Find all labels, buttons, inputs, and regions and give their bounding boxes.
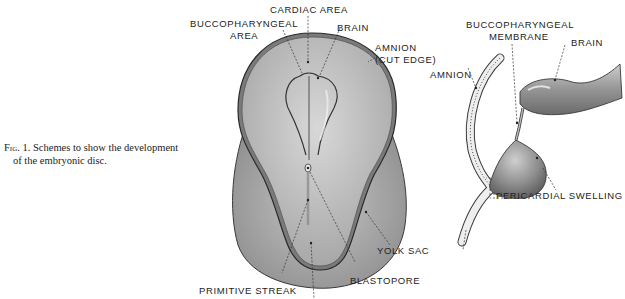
label-cardiac-area: CARDIAC AREA (270, 4, 348, 16)
label-yolk-sac: YOLK SAC (377, 245, 429, 257)
label-buccopharyngeal-membrane-line1: BUCCOPHARYNGEAL (466, 19, 574, 31)
label-amnion-right: AMNION (430, 69, 472, 81)
label-amnion-cut-edge-line2: (CUT EDGE) (375, 54, 436, 66)
label-blastopore: BLASTOPORE (350, 275, 420, 287)
label-pericardial-swelling: PERICARDIAL SWELLING (496, 190, 623, 202)
label-brain-left: BRAIN (337, 22, 369, 34)
label-primitive-streak: PRIMITIVE STREAK (199, 285, 297, 297)
label-buccopharyngeal-area-line2: AREA (230, 30, 258, 42)
label-buccopharyngeal-membrane-line2: MEMBRANE (489, 31, 549, 43)
brain-tube-shape (516, 64, 622, 140)
label-buccopharyngeal-area-line1: BUCCOPHARYNGEAL (190, 18, 298, 30)
label-brain-right: BRAIN (571, 37, 603, 49)
label-amnion-cut-edge-line1: AMNION (375, 42, 417, 54)
diagram-illustration (0, 0, 625, 299)
